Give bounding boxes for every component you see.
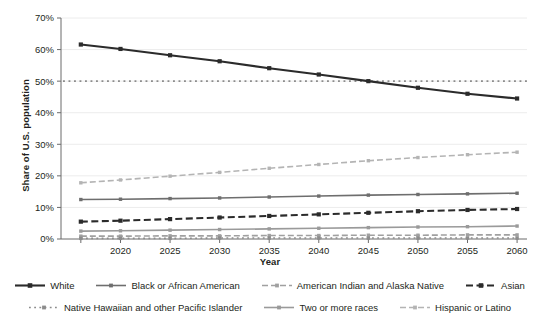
legend-label: Black or African American [131,280,239,291]
data-point [168,53,172,57]
data-point [268,227,271,230]
data-point [466,192,469,195]
series-3 [79,207,519,224]
legend-swatch-solid [96,280,126,291]
legend-label: Native Hawaiian and other Pacific Island… [64,302,242,313]
data-point [119,237,122,240]
series-1 [79,192,519,202]
series-line [81,193,517,199]
data-point [79,181,82,184]
data-point [218,236,221,239]
data-point [119,198,122,201]
legend-label: American Indian and Alaska Native [297,280,444,291]
data-point [367,226,370,229]
data-point [79,229,82,232]
data-point [366,79,370,83]
data-point [168,228,171,231]
y-tick-label: 10% [35,202,55,213]
data-point [268,236,271,239]
legend-swatch-dashed [262,280,292,291]
data-point [168,237,171,240]
data-point [317,194,320,197]
legend-row-bottom: Native Hawaiian and other Pacific Island… [0,296,540,318]
data-point [79,237,82,240]
data-point [79,42,83,46]
data-point [515,150,518,153]
legend-swatch-dashed [400,302,430,313]
series-2 [79,233,519,238]
x-axis: 202020252030203520402045205020552060 [61,239,528,256]
legend-item[interactable]: White [15,280,74,291]
data-point [466,233,469,236]
data-point [218,59,222,63]
data-point [118,219,122,223]
series-4 [79,236,519,240]
series-5 [79,224,519,232]
data-point [416,209,420,213]
legend-swatch-solid [264,302,294,313]
x-tick-label: 2025 [159,245,180,256]
series-line [81,235,517,236]
legend-item[interactable]: Black or African American [96,280,239,291]
series-0 [79,42,519,100]
y-tick-label: 0% [40,233,54,244]
legend-label: Two or more races [299,302,378,313]
data-point [367,236,370,239]
data-point [267,66,271,70]
data-point [218,171,221,174]
y-tick-label: 50% [35,76,55,87]
data-point [168,217,172,221]
x-tick-label: 2045 [358,245,379,256]
legend-label: Hispanic or Latino [435,302,511,313]
legend-label: Asian [501,280,525,291]
legend-label: White [50,280,74,291]
x-tick-label: 2050 [407,245,428,256]
x-tick-label: 2030 [209,245,230,256]
x-tick-label: 2055 [457,245,478,256]
legend-item[interactable]: Two or more races [264,302,378,313]
data-point [466,236,469,239]
data-point [515,96,519,100]
data-point [218,228,221,231]
legend-item[interactable]: Native Hawaiian and other Pacific Island… [29,302,242,313]
legend-swatch-dashed [466,280,496,291]
x-tick-label: 2020 [110,245,131,256]
x-tick-label: 2035 [259,245,280,256]
data-point [317,72,321,76]
data-point [317,163,320,166]
legend-swatch-dotted [29,302,59,313]
data-point [317,236,320,239]
data-point [267,214,271,218]
y-axis: 0%10%20%30%40%50%60%70% [35,12,61,244]
data-point [465,92,469,96]
data-point [515,224,518,227]
data-point [268,195,271,198]
legend-item[interactable]: American Indian and Alaska Native [262,280,444,291]
x-axis-title: Year [0,256,540,267]
data-point [416,193,419,196]
y-tick-label: 40% [35,107,55,118]
data-point [416,225,419,228]
data-point [515,192,518,195]
series-line [81,209,517,222]
data-point [79,198,82,201]
legend-swatch-solid [15,280,45,291]
data-point [366,211,370,215]
data-point [515,233,518,236]
data-point [465,208,469,212]
chart-legend: WhiteBlack or African AmericanAmerican I… [0,274,540,318]
y-tick-label: 30% [35,139,55,150]
data-point [466,153,469,156]
x-tick-label: 2060 [507,245,528,256]
legend-item[interactable]: Asian [466,280,525,291]
series-6 [79,150,519,184]
legend-item[interactable]: Hispanic or Latino [400,302,511,313]
data-point [268,167,271,170]
data-point [168,197,171,200]
y-axis-title: Share of U.S. population [20,51,31,221]
data-point [317,227,320,230]
data-point [416,86,420,90]
legend-row-top: WhiteBlack or African AmericanAmerican I… [0,274,540,296]
population-share-line-chart: 0%10%20%30%40%50%60%70% 2020202520302035… [0,0,540,326]
data-point [416,156,419,159]
